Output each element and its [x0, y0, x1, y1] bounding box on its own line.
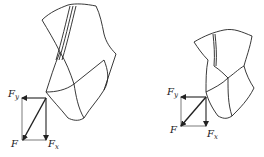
- right-drill-bit: Fy F Fx: [166, 29, 254, 141]
- right-force-vectors: [181, 97, 206, 126]
- left-f-vector: [23, 98, 46, 140]
- right-fy-label: Fy: [166, 86, 179, 99]
- left-f-label: F: [10, 138, 19, 149]
- left-fx-label: Fx: [47, 138, 59, 151]
- force-diagrams: Fy F Fx Fy F Fx: [0, 0, 264, 157]
- left-fy-label: Fy: [7, 88, 20, 101]
- left-force-vectors: [22, 98, 46, 140]
- right-f-label: F: [169, 124, 178, 135]
- right-fx-label: Fx: [206, 128, 218, 141]
- right-f-vector: [181, 97, 206, 126]
- left-drill-body: [42, 4, 116, 120]
- right-drill-body: [194, 29, 254, 118]
- left-drill-bit: Fy F Fx: [7, 4, 116, 151]
